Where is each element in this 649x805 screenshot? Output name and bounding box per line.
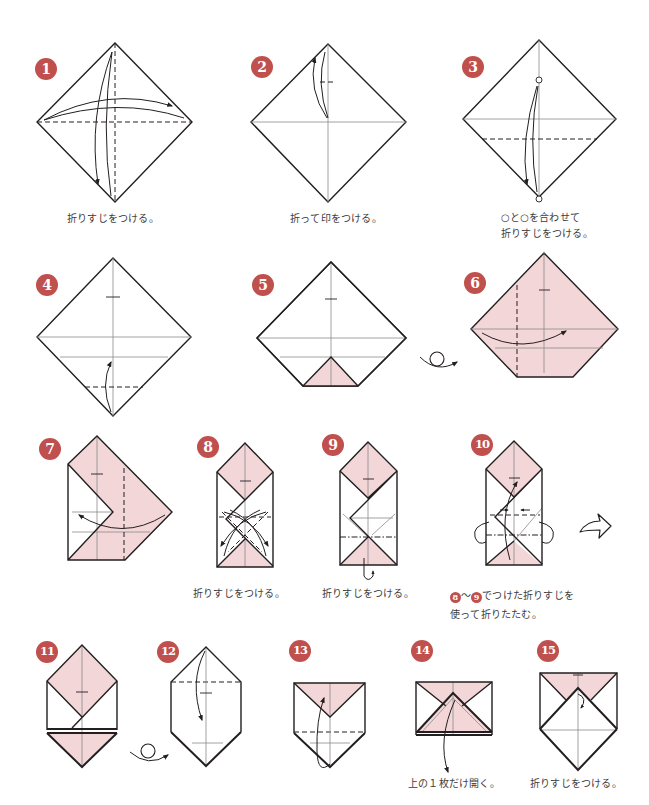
step-3-caption-line-1: ○と○を合わせて [501, 210, 593, 226]
step-10-caption-line-1: 8〜9でつけた折りすじを [450, 586, 574, 605]
step-6-diagram [471, 253, 618, 377]
diagram-canvas [0, 0, 649, 805]
step-badge-5: 5 [252, 274, 274, 296]
step-10-caption: 8〜9でつけた折りすじを 使って折りたたむ。 [450, 586, 574, 624]
step-8-diagram [217, 443, 273, 567]
paper-square [463, 40, 616, 197]
step-15-caption: 折りすじをつける。 [530, 776, 622, 791]
step-badge-3: 3 [462, 56, 484, 78]
step-badge-6: 6 [464, 272, 486, 294]
step-1-diagram [37, 43, 192, 202]
step-ref-badge-9: 9 [471, 592, 482, 603]
step-10-caption-line-1-text: でつけた折りすじを [482, 590, 574, 601]
step-ref-badge-8: 8 [450, 592, 461, 603]
step-badge-2: 2 [251, 56, 273, 78]
step-11-diagram [47, 645, 117, 767]
step-10-caption-line-2: 使って折りたたむ。 [450, 605, 574, 624]
step-badge-13: 13 [289, 640, 311, 662]
step-9-caption: 折りすじをつける。 [322, 586, 414, 601]
step-4-diagram [37, 258, 191, 416]
step-badge-15: 15 [537, 640, 559, 662]
step-badge-7: 7 [39, 438, 61, 460]
step-14-caption: 上の１枚だけ開く。 [408, 776, 500, 791]
step-3-caption: ○と○を合わせて 折りすじをつける。 [501, 210, 593, 242]
range-tilde: 〜 [461, 590, 471, 601]
step-12-diagram [171, 647, 241, 766]
step-9-diagram [340, 442, 397, 580]
step-14-diagram [416, 682, 492, 772]
match-point-circle-icon [536, 196, 542, 202]
step-badge-14: 14 [411, 640, 433, 662]
step-badge-11: 11 [36, 641, 58, 663]
step-2-diagram [251, 44, 406, 202]
step-badge-12: 12 [157, 641, 179, 663]
step-badge-9: 9 [322, 434, 344, 456]
hollow-next-arrow-icon [580, 514, 611, 538]
step-2-caption: 折って印をつける。 [290, 211, 382, 226]
match-point-circle-icon [536, 77, 542, 83]
turn-over-icon [420, 352, 457, 367]
step-badge-10: 10 [471, 434, 493, 456]
paper-shape-colored [471, 253, 618, 377]
step-8-caption: 折りすじをつける。 [193, 586, 285, 601]
step-5-diagram [257, 262, 406, 386]
step-13-diagram [294, 683, 365, 768]
step-badge-1: 1 [35, 58, 57, 80]
origami-instruction-page: 1 2 3 4 5 6 7 8 9 10 11 12 13 14 15 折りすじ… [0, 0, 649, 805]
step-3-diagram [463, 40, 616, 202]
turn-over-icon [130, 744, 168, 761]
step-15-diagram [540, 673, 617, 770]
paper-square [251, 44, 406, 202]
step-badge-4: 4 [36, 274, 58, 296]
step-10-diagram [475, 441, 554, 565]
step-badge-8: 8 [197, 436, 219, 458]
step-3-caption-line-2: 折りすじをつける。 [501, 226, 593, 242]
step-7-diagram [68, 436, 172, 560]
step-1-caption: 折りすじをつける。 [67, 211, 159, 226]
